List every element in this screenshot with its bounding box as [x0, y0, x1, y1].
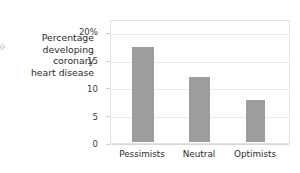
y-axis-title: Percentage developing coronary heart dis…: [8, 32, 94, 78]
gridline-0: [111, 144, 289, 145]
plot-area: [110, 20, 290, 144]
bar-neutral: [189, 77, 210, 142]
y-tick-label-5: 5: [58, 113, 98, 122]
x-tick-label-neutral: Neutral: [183, 149, 215, 159]
bar-optimists: [246, 100, 265, 142]
chart-figure: » Percentage developing coronary heart d…: [0, 0, 300, 173]
y-tick-label-20: 20%: [58, 28, 98, 37]
y-tick-label-0: 0: [58, 140, 98, 149]
bar-pessimists: [132, 47, 154, 142]
y-axis-title-line: developing: [8, 44, 94, 56]
y-tick-label-15: 15: [58, 57, 98, 66]
y-axis-title-line: heart disease: [8, 67, 94, 79]
x-tick-label-pessimists: Pessimists: [119, 149, 165, 159]
bars-layer: [111, 21, 289, 143]
y-tick-label-10: 10: [58, 85, 98, 94]
x-tick-label-optimists: Optimists: [234, 149, 276, 159]
